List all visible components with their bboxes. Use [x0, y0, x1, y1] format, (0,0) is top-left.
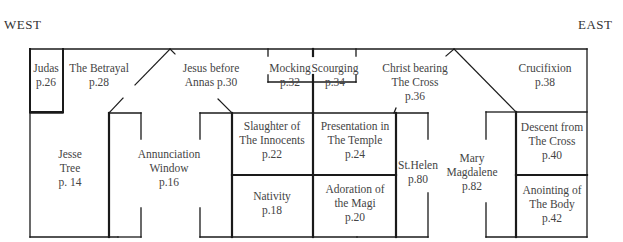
panel-label-line: Jesse — [58, 147, 82, 161]
panel-betrayal: The Betrayalp.28 — [69, 61, 129, 89]
panel-label-line: Mocking — [269, 61, 311, 75]
panel-mocking: Mockingp.32 — [269, 61, 311, 89]
panel-presentation: Presentation inThe Templep.24 — [321, 119, 390, 161]
panel-label-line: p.36 — [382, 89, 447, 103]
panel-label-line: Slaughter of — [239, 119, 304, 133]
panel-label-line: p.40 — [521, 148, 583, 162]
panel-label-line: The Innocents — [239, 133, 304, 147]
panel-label-line: Presentation in — [321, 119, 390, 133]
panel-jesse-tree: JesseTreep. 14 — [58, 147, 82, 189]
panel-label-line: The Temple — [321, 133, 390, 147]
panel-label-line: The Body — [522, 197, 581, 211]
panel-magdalene: MaryMagdalenep.82 — [446, 151, 497, 193]
panel-label-line: p.24 — [321, 147, 390, 161]
panel-label-line: p.26 — [33, 75, 59, 89]
panel-label-line: Crucifixion — [518, 61, 571, 75]
panel-label-line: p.22 — [239, 147, 304, 161]
panel-label-line: p.34 — [311, 75, 358, 89]
panel-label-line: The Cross — [521, 134, 583, 148]
panel-label-line: The Cross — [382, 75, 447, 89]
panel-label-line: p.16 — [138, 175, 201, 189]
panel-label-line: Magdalene — [446, 165, 497, 179]
panel-label-line: Mary — [446, 151, 497, 165]
panel-label-line: Nativity — [253, 189, 291, 203]
panel-label-line: the Magi — [325, 196, 384, 210]
panel-label-line: Adoration of — [325, 182, 384, 196]
panel-scourging: Scourgingp.34 — [311, 61, 358, 89]
panel-label-line: Annas p.30 — [183, 75, 240, 89]
panel-judas: Judasp.26 — [33, 61, 59, 89]
panel-label-line: p.42 — [522, 211, 581, 225]
panel-label-line: Window — [138, 161, 201, 175]
panel-label-line: Judas — [33, 61, 59, 75]
panel-label-line: p.28 — [69, 75, 129, 89]
panel-nativity: Nativityp.18 — [253, 189, 291, 217]
panel-st-helen: St.Helenp.80 — [398, 158, 438, 186]
panel-label-line: Jesus before — [183, 61, 240, 75]
panel-anointing: Anointing ofThe Bodyp.42 — [522, 183, 581, 225]
panel-label-line: Tree — [58, 161, 82, 175]
panel-crucifixion: Crucifixionp.38 — [518, 61, 571, 89]
panel-label-line: Scourging — [311, 61, 358, 75]
panel-label-line: p.80 — [398, 172, 438, 186]
panel-annas: Jesus beforeAnnas p.30 — [183, 61, 240, 89]
panel-label-line: Christ bearing — [382, 61, 447, 75]
panel-descent: Descent fromThe Crossp.40 — [521, 120, 583, 162]
panel-label-line: p.18 — [253, 203, 291, 217]
panel-label-line: The Betrayal — [69, 61, 129, 75]
panel-label-line: p.20 — [325, 210, 384, 224]
panel-label-line: p.82 — [446, 179, 497, 193]
panel-label-line: Anointing of — [522, 183, 581, 197]
panel-label-line: p.38 — [518, 75, 571, 89]
panel-bearing-cross: Christ bearingThe Crossp.36 — [382, 61, 447, 103]
panel-innocents: Slaughter ofThe Innocentsp.22 — [239, 119, 304, 161]
panel-magi: Adoration ofthe Magip.20 — [325, 182, 384, 224]
panel-label-line: Descent from — [521, 120, 583, 134]
panel-label-line: p. 14 — [58, 175, 82, 189]
panel-label-line: St.Helen — [398, 158, 438, 172]
panel-label-line: Annunciation — [138, 147, 201, 161]
panel-label-line: p.32 — [269, 75, 311, 89]
panel-annunciation: AnnunciationWindowp.16 — [138, 147, 201, 189]
